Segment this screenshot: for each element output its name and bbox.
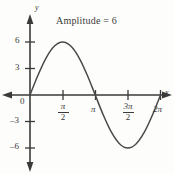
y-axis-arrow-up-icon [27, 14, 34, 24]
chart-title: Amplitude = 6 [56, 16, 117, 26]
y-tick-label-neg3: –3 [10, 116, 19, 125]
x-tick-label-2pi: 2π [153, 104, 162, 114]
x-tick-3pi-over-2-numerator: 3π [117, 102, 139, 111]
y-tick-label-6: 6 [15, 36, 20, 45]
y-axis-arrow-down-icon [27, 162, 34, 172]
x-tick-3pi-over-2-denominator: 2 [117, 113, 139, 122]
y-tick-label-3: 3 [15, 63, 20, 72]
x-axis-label: x [165, 89, 169, 97]
x-axis-arrow-left-icon [2, 92, 12, 99]
graph-figure: Amplitude = 6 y x 0 6 3 –3 –6 π 2 π 3π 2… [0, 0, 174, 174]
x-tick-label-3pi-over-2: 3π 2 [117, 102, 139, 123]
x-tick-pi-over-2-denominator: 2 [53, 113, 73, 122]
y-tick-label-neg6: –6 [10, 142, 19, 151]
x-tick-pi-over-2-numerator: π [53, 102, 73, 111]
y-axis-label: y [35, 4, 39, 12]
plot-canvas [0, 0, 174, 174]
x-tick-label-pi: π [91, 104, 96, 114]
origin-label: 0 [20, 97, 25, 106]
x-tick-label-pi-over-2: π 2 [53, 102, 73, 123]
